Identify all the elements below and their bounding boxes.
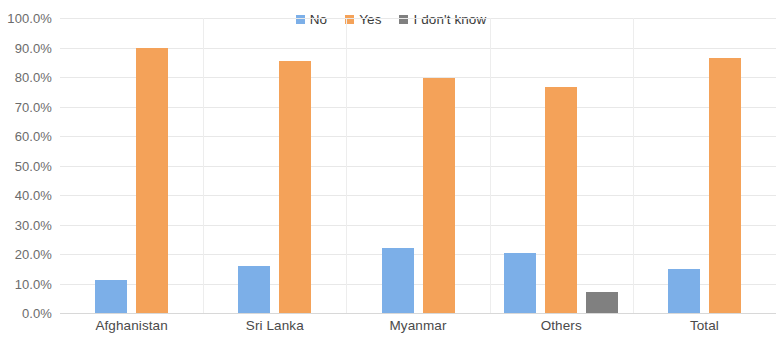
bar[interactable] bbox=[136, 48, 168, 313]
y-axis-tick-label: 60.0% bbox=[15, 129, 52, 144]
x-axis: AfghanistanSri LankaMyanmarOthersTotal bbox=[60, 318, 776, 333]
bar-group bbox=[60, 18, 203, 313]
bar[interactable] bbox=[238, 266, 270, 313]
axis-baseline bbox=[60, 313, 776, 314]
bar[interactable] bbox=[504, 253, 536, 313]
y-axis: 100.0%90.0%80.0%70.0%60.0%50.0%40.0%30.0… bbox=[0, 0, 58, 348]
bar[interactable] bbox=[279, 61, 311, 313]
y-axis-tick-label: 10.0% bbox=[15, 276, 52, 291]
y-axis-tick-label: 0.0% bbox=[22, 306, 52, 321]
bar[interactable] bbox=[423, 78, 455, 313]
bar[interactable] bbox=[95, 280, 127, 313]
bar-chart: No Yes I don't know 100.0%90.0%80.0%70.0… bbox=[0, 0, 782, 348]
y-axis-tick-label: 40.0% bbox=[15, 188, 52, 203]
y-axis-tick-label: 50.0% bbox=[15, 158, 52, 173]
bar-groups bbox=[60, 18, 776, 313]
bar-group bbox=[633, 18, 776, 313]
bar[interactable] bbox=[586, 292, 618, 313]
x-axis-category-label: Myanmar bbox=[346, 318, 489, 333]
x-axis-category-label: Sri Lanka bbox=[203, 318, 346, 333]
x-axis-category-label: Afghanistan bbox=[60, 318, 203, 333]
x-axis-category-label: Total bbox=[633, 318, 776, 333]
bar-group bbox=[490, 18, 633, 313]
plot-area bbox=[60, 18, 776, 313]
bar[interactable] bbox=[382, 248, 414, 313]
bar[interactable] bbox=[709, 58, 741, 313]
y-axis-tick-label: 30.0% bbox=[15, 217, 52, 232]
bar-group bbox=[203, 18, 346, 313]
y-axis-tick-label: 100.0% bbox=[7, 11, 52, 26]
y-axis-tick-label: 20.0% bbox=[15, 247, 52, 262]
bar-group bbox=[346, 18, 489, 313]
y-axis-tick-label: 90.0% bbox=[15, 40, 52, 55]
bar[interactable] bbox=[545, 87, 577, 313]
y-axis-tick-label: 80.0% bbox=[15, 70, 52, 85]
y-axis-tick-label: 70.0% bbox=[15, 99, 52, 114]
x-axis-category-label: Others bbox=[490, 318, 633, 333]
bar[interactable] bbox=[668, 269, 700, 313]
